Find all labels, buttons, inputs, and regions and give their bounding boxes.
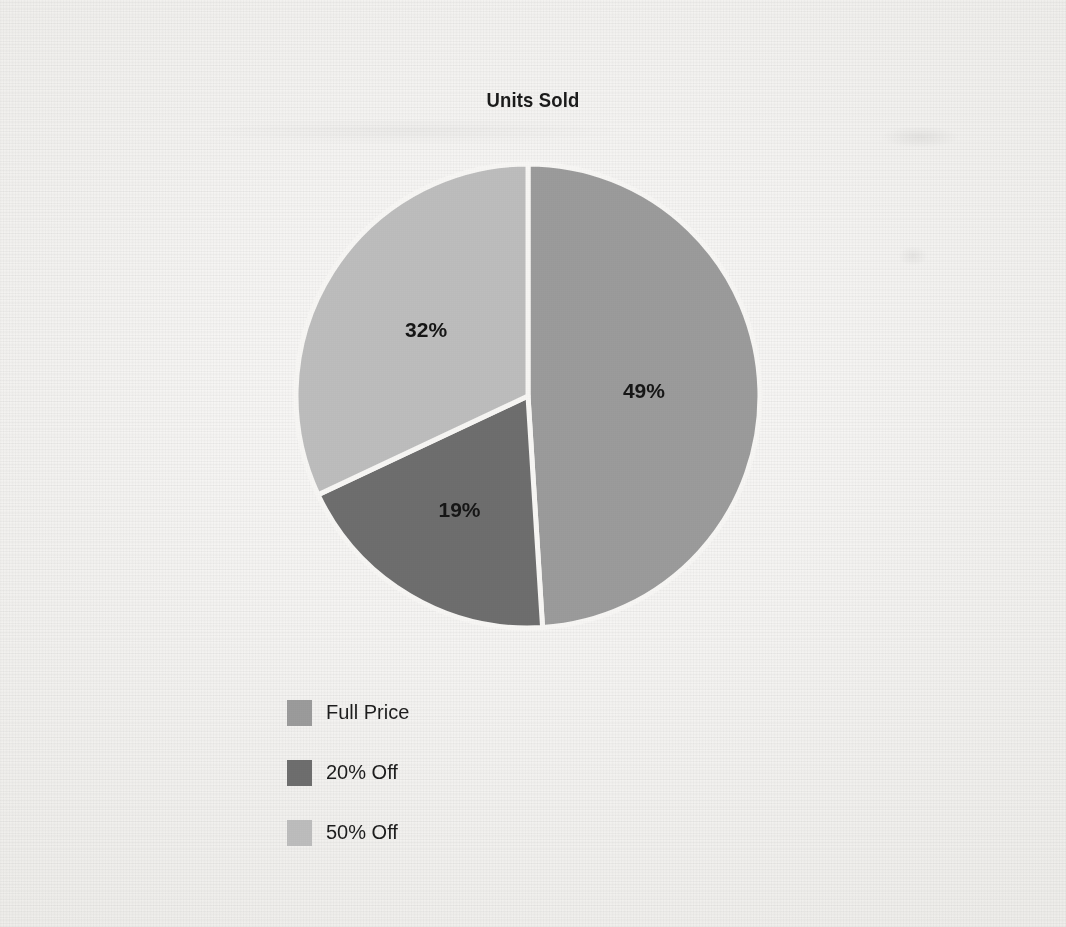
legend-swatch-icon xyxy=(287,760,312,786)
chart-page: Units Sold 49%19%32% Full Price 20% Off … xyxy=(0,0,1066,927)
pie-slice-value-label: 32% xyxy=(405,318,447,341)
legend-item-label: 20% Off xyxy=(326,761,398,784)
legend-item-label: 50% Off xyxy=(326,821,398,844)
chart-legend: Full Price 20% Off 50% Off xyxy=(287,697,587,877)
legend-item-50-off[interactable]: 50% Off xyxy=(287,817,587,848)
legend-swatch-icon xyxy=(287,820,312,846)
pie-slice-value-label: 19% xyxy=(438,498,480,521)
legend-item-20-off[interactable]: 20% Off xyxy=(287,757,587,788)
legend-item-full-price[interactable]: Full Price xyxy=(287,697,587,728)
pie-slice-group xyxy=(296,164,760,628)
legend-swatch-icon xyxy=(287,700,312,726)
pie-slice-value-label: 49% xyxy=(623,379,665,402)
legend-item-label: Full Price xyxy=(326,701,409,724)
